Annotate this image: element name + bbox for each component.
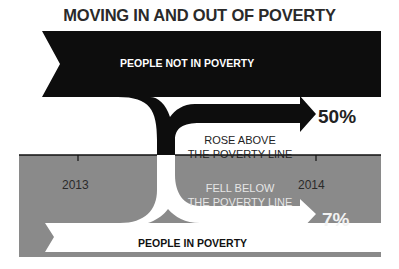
- year-2014-label: 2014: [298, 178, 325, 192]
- not-in-poverty-label: PEOPLE NOT IN POVERTY: [120, 57, 254, 69]
- fell-below-line2: THE POVERTY LINE: [185, 195, 295, 209]
- fell-below-label: FELL BELOW THE POVERTY LINE: [185, 181, 295, 209]
- fell-below-value: 7%: [322, 209, 349, 231]
- fell-below-line1: FELL BELOW: [185, 181, 295, 195]
- rose-above-line1: ROSE ABOVE: [185, 133, 295, 147]
- rose-above-label: ROSE ABOVE THE POVERTY LINE: [185, 133, 295, 161]
- year-2013-label: 2013: [62, 178, 89, 192]
- rose-above-value: 50%: [318, 106, 356, 128]
- in-poverty-label: PEOPLE IN POVERTY: [138, 237, 247, 249]
- rose-above-line2: THE POVERTY LINE: [185, 147, 295, 161]
